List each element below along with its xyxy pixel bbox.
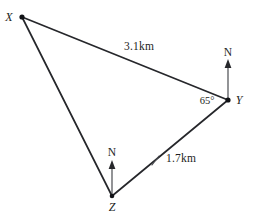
edge-x-to-z [22, 17, 112, 196]
edge-x-to-y [22, 17, 228, 100]
north-arrow-head-z [109, 160, 116, 169]
vertex-dot-y [225, 97, 230, 102]
north-label-y: N [224, 46, 233, 58]
triangle-diagram-canvas: X Y Z 3.1km 1.7km 65° N N [0, 0, 253, 222]
edge-z-to-y [112, 100, 228, 196]
bearing-diagram: X Y Z 3.1km 1.7km 65° N N [0, 0, 253, 222]
distance-label-zy: 1.7km [166, 152, 196, 164]
vertex-label-x: X [4, 10, 13, 24]
vertex-dot-z [110, 194, 115, 199]
tick-mark-edge-zy [152, 156, 159, 165]
vertex-label-z: Z [109, 200, 116, 214]
north-arrow-head-y [225, 59, 232, 68]
angle-label-y: 65° [200, 95, 215, 106]
vertex-label-y: Y [236, 93, 244, 107]
distance-label-xy: 3.1km [124, 40, 154, 52]
north-label-z: N [108, 146, 117, 158]
vertex-dot-x [19, 14, 24, 19]
